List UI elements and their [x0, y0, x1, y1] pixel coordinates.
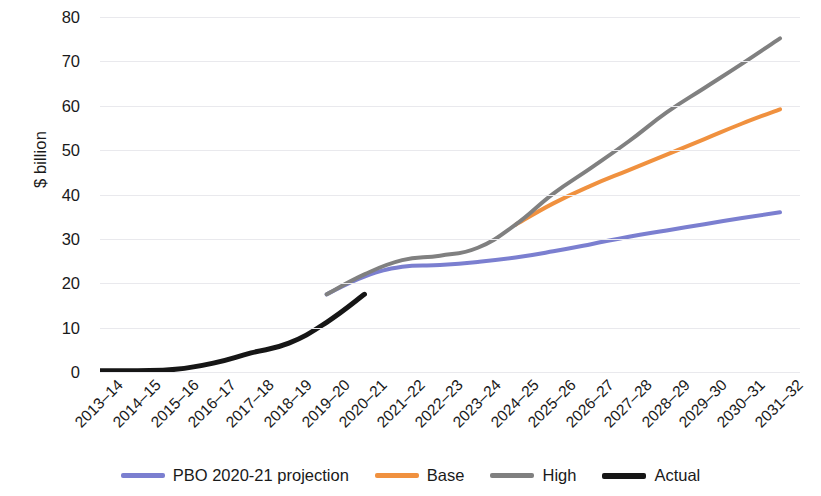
series-line — [327, 212, 780, 294]
legend-swatch-icon — [602, 473, 646, 479]
legend-swatch-icon — [375, 473, 419, 478]
y-axis-tick-label: 0 — [34, 364, 80, 380]
series-line — [100, 294, 364, 370]
legend-label: High — [542, 466, 576, 485]
legend-label: Base — [427, 466, 465, 485]
y-axis-tick-label: 10 — [34, 320, 80, 336]
chart-legend: PBO 2020-21 projectionBaseHighActual — [0, 466, 821, 485]
gridline — [100, 17, 800, 18]
gridline — [100, 150, 800, 151]
gridline — [100, 239, 800, 240]
legend-label: Actual — [654, 466, 700, 485]
y-axis-tick-label: 70 — [34, 53, 80, 69]
legend-item[interactable]: High — [490, 466, 576, 485]
gridline — [100, 61, 800, 62]
legend-item[interactable]: Base — [375, 466, 465, 485]
gridline — [100, 195, 800, 196]
y-axis-tick-label: 30 — [34, 231, 80, 247]
gridline — [100, 106, 800, 107]
chart-container: $ billion 01020304050607080 2013–142014–… — [0, 0, 821, 496]
legend-label: PBO 2020-21 projection — [173, 466, 349, 485]
y-axis-tick-label: 20 — [34, 275, 80, 291]
y-axis-tick-label: 40 — [34, 187, 80, 203]
legend-swatch-icon — [121, 473, 165, 478]
plot-area — [100, 17, 800, 372]
y-axis-tick-label: 50 — [34, 142, 80, 158]
x-axis-tick-labels: 2013–142014–152015–162016–172017–182018–… — [100, 376, 800, 456]
y-axis-tick-label: 60 — [34, 98, 80, 114]
legend-item[interactable]: PBO 2020-21 projection — [121, 466, 349, 485]
gridline — [100, 328, 800, 329]
legend-item[interactable]: Actual — [602, 466, 700, 485]
series-line — [327, 38, 780, 294]
gridline — [100, 372, 800, 373]
legend-swatch-icon — [490, 473, 534, 478]
y-axis-tick-label: 80 — [34, 9, 80, 25]
gridline — [100, 283, 800, 284]
y-axis-tick-labels: 01020304050607080 — [34, 17, 80, 372]
